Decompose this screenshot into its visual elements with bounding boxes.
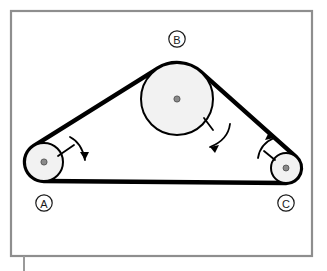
pulley-label-c: C	[278, 195, 294, 211]
pulley-label-b: B	[169, 31, 185, 47]
pulley-label-a-text: A	[40, 198, 48, 210]
rotation-arrow-a-arc	[70, 137, 85, 160]
pulley-c-hub	[283, 165, 289, 171]
rotation-arrow-pulley-b	[204, 118, 230, 153]
rotation-arrow-c-spoke	[264, 151, 275, 160]
pulley-b	[141, 63, 213, 135]
rotation-arrow-a-head	[80, 152, 89, 160]
rotation-arrow-b-spoke	[204, 118, 213, 130]
figure-canvas: A B C	[0, 0, 327, 271]
pulley-c	[271, 153, 301, 183]
pulley-label-a: A	[36, 195, 52, 211]
pulley-a-hub	[41, 159, 47, 165]
pulley-a	[25, 143, 63, 181]
rotation-arrow-b-arc	[210, 124, 230, 147]
pulley-label-c-text: C	[282, 198, 290, 210]
rotation-arrow-pulley-c	[258, 132, 275, 160]
rotation-arrow-c-arc	[258, 138, 274, 158]
belt-drive-figure: A B C	[0, 0, 327, 271]
pulley-label-b-text: B	[173, 34, 180, 46]
rotation-arrow-a-spoke	[58, 145, 74, 156]
pulley-b-hub	[174, 96, 180, 102]
